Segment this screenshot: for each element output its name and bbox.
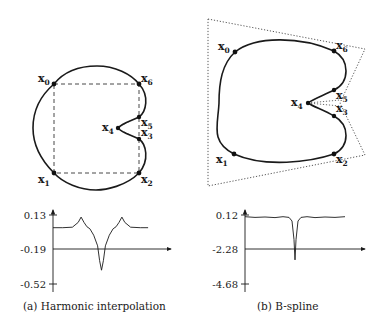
curvature-line [53,217,148,270]
y-tick-label-mid: -0.19 [20,244,46,255]
curvature-chart-harmonic: 0.13 -0.19 -0.52 [20,210,171,292]
y-tick-label-mid: -2.28 [212,244,238,255]
point-x1 [52,171,57,176]
label-x6: x6 [336,39,348,54]
panel-b-points [232,49,337,157]
label-x4: x4 [102,121,114,136]
curvature-line [245,217,345,260]
point-x4 [116,126,120,130]
y-tick-label-bottom: -0.52 [20,279,46,290]
panel-a-labels: x0 x6 x1 x2 x5 x3 x4 [38,72,153,188]
panel-a-shape [33,66,146,190]
panel-b-labels: x0 x6 x1 x2 x5 x3 x4 [216,39,348,168]
label-x0: x0 [218,40,230,55]
label-x1: x1 [38,173,50,188]
y-tick-label-top: 0.12 [216,210,238,221]
label-x3: x3 [336,102,348,117]
y-tick-label-bottom: -4.68 [212,279,238,290]
y-tick-label-top: 0.13 [24,210,46,221]
point-x0 [52,82,57,87]
control-polygon-dashed [54,84,139,173]
label-x4: x4 [291,96,303,111]
caption-b: (b) B-spline [257,300,319,312]
label-x2: x2 [336,153,348,168]
label-x2: x2 [141,173,153,188]
caption-a: (a) Harmonic interpolation [23,300,166,312]
point-x1 [232,152,237,157]
point-x0 [233,50,238,55]
harmonic-curve [33,66,146,190]
figure: x0 x6 x1 x2 x5 x3 x4 x0 x6 x1 x2 x5 x3 x… [0,0,380,330]
label-x6: x6 [141,72,153,87]
point-x4 [306,101,310,105]
curvature-chart-bspline: 0.12 -2.28 -4.68 [212,210,365,292]
panel-a-points [52,82,142,176]
label-x0: x0 [38,72,50,87]
label-x1: x1 [216,153,228,168]
